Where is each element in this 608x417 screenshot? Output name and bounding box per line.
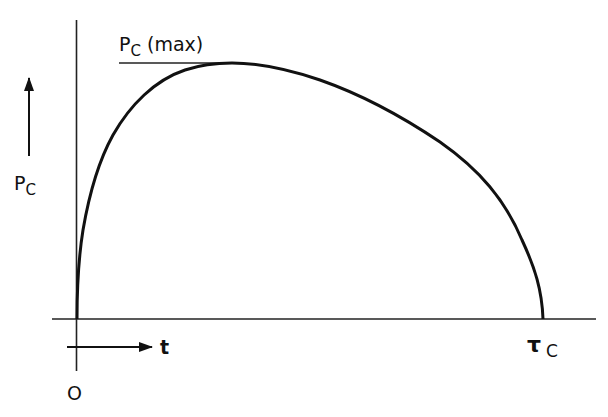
pc-curve xyxy=(77,63,543,319)
y-axis-label: PC xyxy=(14,174,36,193)
pc-max-sub: C xyxy=(130,42,140,60)
y-label-main: P xyxy=(14,172,25,194)
y-label-sub: C xyxy=(25,181,35,199)
tau-c-label: τC xyxy=(527,334,558,356)
pc-max-suffix: (max) xyxy=(141,33,203,55)
tau-main: τ xyxy=(527,332,541,357)
tau-sub: C xyxy=(546,341,558,361)
chart-canvas xyxy=(0,0,608,417)
pc-max-main: P xyxy=(119,33,130,55)
origin-label: O xyxy=(67,384,82,403)
t-label: t xyxy=(160,338,169,357)
pc-max-label: PC (max) xyxy=(119,35,203,54)
